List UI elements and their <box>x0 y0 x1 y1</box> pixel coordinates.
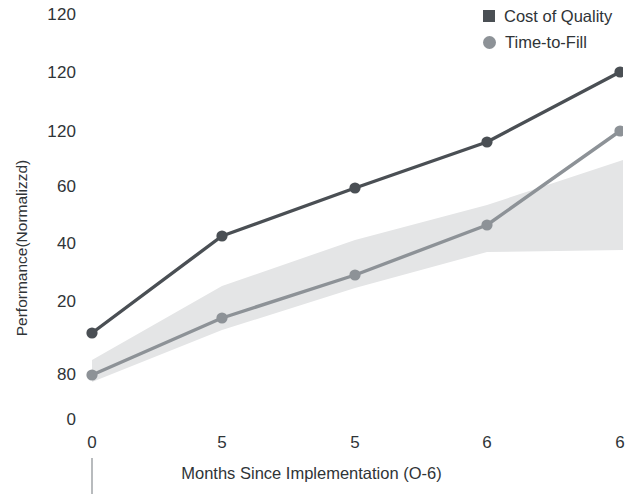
x-axis-tick-label: 5 <box>350 434 359 451</box>
legend-item-label: Time-to-Fill <box>505 34 587 51</box>
x-axis-title: Months Since Implementation (O-6) <box>0 464 623 483</box>
x-axis-tick-label: 0 <box>87 434 96 451</box>
legend-square-marker-icon <box>483 10 495 22</box>
y-axis-title: Performance(Normalizzd) <box>13 108 31 388</box>
x-axis-tick-label: 6 <box>615 434 624 451</box>
x-axis-tick-label: 6 <box>482 434 491 451</box>
x-axis-tick-label: 5 <box>217 434 226 451</box>
legend-item-label: Cost of Quality <box>504 8 612 25</box>
chart-legend: Cost of QualityTime-to-Fill <box>483 6 612 52</box>
legend-circle-marker-icon <box>483 36 496 49</box>
legend-item[interactable]: Cost of Quality <box>483 6 612 26</box>
legend-item[interactable]: Time-to-Fill <box>483 32 612 52</box>
